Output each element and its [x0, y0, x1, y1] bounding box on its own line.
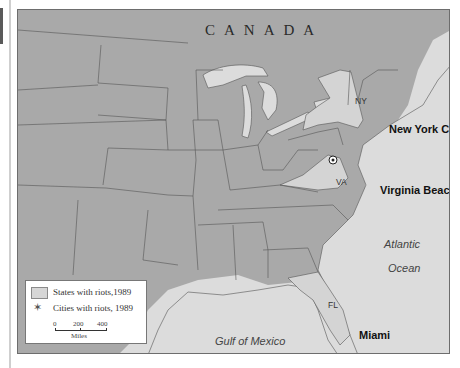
page-margin-rule: [9, 0, 11, 368]
water-label-ocean: Ocean: [388, 262, 420, 274]
state-label-va: VA: [336, 177, 347, 187]
map-legend: States with riots,1989 ✶ Cities with rio…: [25, 280, 147, 344]
scale-tick-mark: [106, 328, 107, 331]
water-label-gulf-of-mexico: Gulf of Mexico: [215, 335, 285, 347]
city-label-miami: Miami: [359, 329, 390, 341]
legend-cities-label: Cities with riots, 1989: [53, 303, 133, 313]
scale-bar: 0 200 400 Miles: [53, 320, 108, 340]
scale-units: Miles: [71, 332, 87, 340]
country-label-canada: CANADA: [205, 22, 323, 39]
page-edge-bar: [0, 8, 3, 44]
state-label-fl: FL: [328, 300, 338, 310]
map-frame: CANADA NY VA FL New York City Virginia B…: [17, 9, 450, 354]
city-riot-icon: ✶: [33, 301, 42, 314]
scale-tick-mark: [55, 328, 56, 331]
state-label-ny: NY: [355, 96, 367, 106]
city-label-virginia-beach: Virginia Beach: [380, 184, 450, 196]
states-swatch: [31, 287, 48, 299]
city-label-new-york-city: New York City: [389, 123, 450, 135]
scale-tick-0: 0: [53, 320, 57, 328]
scale-tick-mark: [80, 328, 81, 331]
scale-tick-200: 200: [73, 320, 84, 328]
water-label-atlantic: Atlantic: [384, 238, 420, 250]
scale-line: [55, 330, 107, 331]
legend-states-label: States with riots,1989: [53, 287, 131, 297]
scale-tick-400: 400: [97, 320, 108, 328]
